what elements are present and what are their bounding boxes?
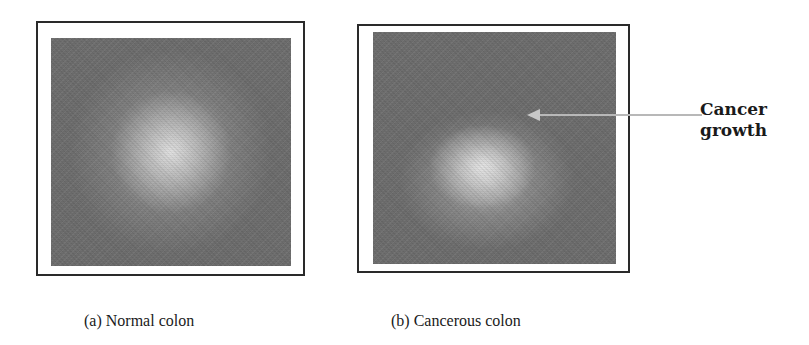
caption-cancerous-colon: (b) Cancerous colon: [391, 312, 521, 330]
cancer-growth-annotation: Cancer growth: [700, 99, 767, 141]
arrow-left-icon: [527, 108, 702, 122]
annotation-line-2: growth: [700, 120, 767, 141]
annotation-line-1: Cancer: [700, 99, 767, 120]
image-noise-texture: [373, 32, 616, 264]
cancerous-colon-image: [373, 32, 616, 264]
normal-colon-image: [51, 38, 291, 266]
image-noise-texture: [51, 38, 291, 266]
caption-normal-colon: (a) Normal colon: [84, 312, 194, 330]
